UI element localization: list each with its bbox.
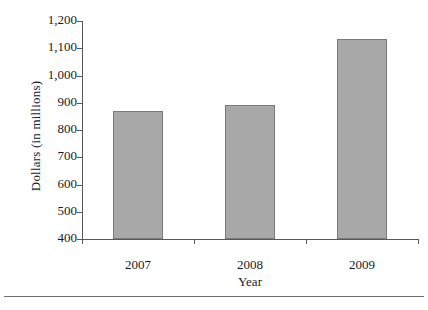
y-tick-mark: [77, 48, 82, 49]
y-tick-label: 900: [58, 94, 78, 110]
y-tick-mark: [77, 212, 82, 213]
bar-2008: [225, 105, 275, 239]
x-tick-mark: [418, 239, 419, 244]
y-tick-mark: [77, 76, 82, 77]
bottom-divider: [4, 296, 424, 297]
y-tick-mark: [77, 21, 82, 22]
x-tick-label-2008: 2008: [210, 257, 290, 273]
y-tick-label: 600: [58, 176, 78, 192]
y-tick-label: 1,200: [48, 12, 77, 28]
y-tick-label: 1,100: [48, 39, 77, 55]
x-tick-label-2009: 2009: [322, 257, 402, 273]
y-axis-line: [82, 21, 83, 239]
bar-2009: [337, 39, 387, 239]
x-tick-label-2007: 2007: [98, 257, 178, 273]
y-tick-mark: [77, 103, 82, 104]
plot-area: 4005006007008009001,0001,1001,200 200720…: [82, 21, 418, 239]
x-tick-mark: [306, 239, 307, 244]
y-tick-mark: [77, 157, 82, 158]
x-axis-title: Year: [82, 274, 418, 290]
y-tick-mark: [77, 185, 82, 186]
x-tick-mark: [194, 239, 195, 244]
y-tick-label: 400: [58, 230, 78, 246]
bar-2007: [113, 111, 163, 239]
y-tick-label: 500: [58, 203, 78, 219]
y-tick-label: 800: [58, 121, 78, 137]
y-axis-title: Dollars (in millions): [28, 36, 44, 236]
y-tick-label: 1,000: [48, 67, 77, 83]
x-axis-line: [82, 239, 418, 240]
y-tick-mark: [77, 130, 82, 131]
bar-chart-figure: Dollars (in millions) 400500600700800900…: [0, 0, 428, 310]
y-tick-label: 700: [58, 148, 78, 164]
x-tick-mark: [82, 239, 83, 244]
